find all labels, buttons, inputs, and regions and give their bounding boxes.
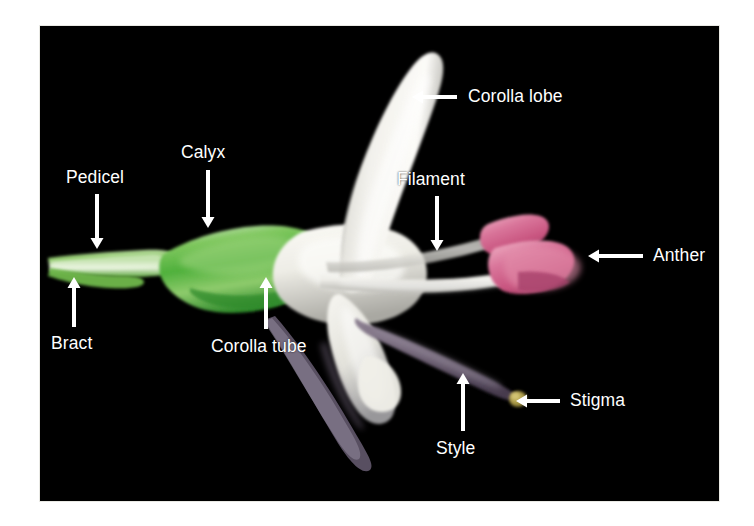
flower-specimen-illustration: [40, 26, 719, 501]
stigma-structure: [509, 391, 527, 407]
figure-root: Corolla lobePedicelCalyxFilamentAntherBr…: [0, 0, 754, 526]
specimen-photograph: [40, 26, 719, 501]
